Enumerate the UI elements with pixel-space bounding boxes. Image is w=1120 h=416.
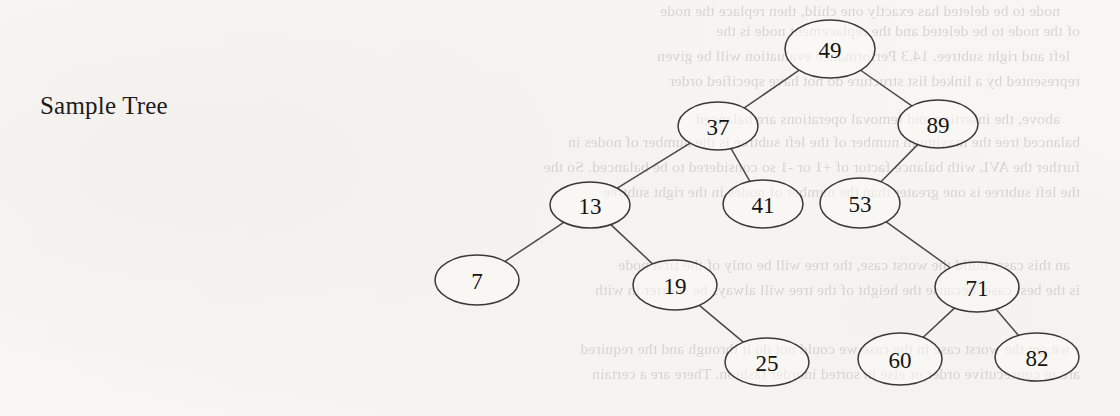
tree-node-89: 89: [898, 100, 978, 148]
node-label: 37: [707, 115, 730, 140]
node-label: 13: [579, 194, 602, 219]
scanned-page: node to be deleted has exactly one child…: [0, 0, 1120, 416]
node-label: 89: [927, 113, 950, 138]
tree-edge-89-53: [881, 145, 918, 182]
tree-node-19: 19: [633, 260, 717, 310]
node-label: 53: [849, 192, 872, 217]
tree-node-13: 13: [550, 182, 630, 228]
tree-node-53: 53: [820, 178, 900, 228]
tree-edge-71-82: [996, 309, 1018, 335]
node-label: 7: [471, 269, 483, 294]
tree-node-group: 49378913415371971256082: [435, 20, 1079, 386]
tree-edge-49-37: [744, 70, 799, 108]
tree-edge-49-89: [861, 70, 912, 106]
tree-node-82: 82: [995, 333, 1079, 381]
tree-edge-71-60: [923, 308, 954, 337]
node-label: 60: [889, 348, 912, 373]
tree-node-7: 7: [435, 255, 519, 305]
tree-node-41: 41: [723, 180, 803, 228]
tree-edge-19-25: [699, 305, 743, 342]
node-label: 49: [819, 38, 842, 63]
tree-node-71: 71: [935, 262, 1019, 312]
tree-edge-13-19: [611, 225, 653, 264]
tree-node-37: 37: [678, 102, 758, 150]
node-label: 25: [756, 351, 779, 376]
node-label: 41: [752, 193, 775, 218]
tree-node-49: 49: [785, 20, 875, 78]
node-label: 71: [966, 276, 989, 301]
node-label: 82: [1026, 346, 1049, 371]
binary-tree-diagram: 49378913415371971256082: [0, 0, 1120, 416]
tree-edge-37-13: [617, 143, 690, 188]
tree-node-25: 25: [725, 338, 809, 386]
tree-edge-53-71: [886, 222, 950, 268]
tree-edge-13-7: [505, 222, 564, 261]
tree-edge-37-41: [731, 149, 750, 182]
tree-node-60: 60: [858, 333, 942, 385]
node-label: 19: [664, 274, 687, 299]
